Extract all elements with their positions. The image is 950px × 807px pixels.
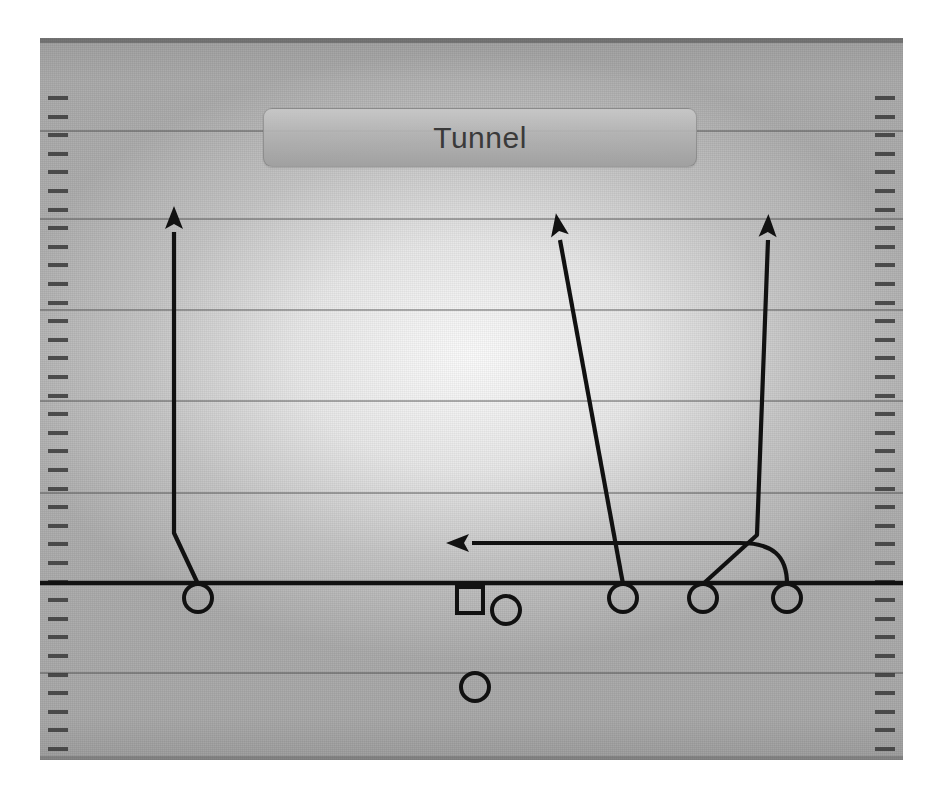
hash-mark-right-19: [875, 449, 895, 453]
hash-mark-right-17: [875, 412, 895, 416]
hash-mark-right-7: [875, 226, 895, 230]
hash-mark-right-26: [875, 580, 895, 584]
hash-mark-right-29: [875, 635, 895, 639]
hash-mark-right-35: [875, 747, 895, 751]
hash-mark-right-1: [875, 115, 895, 119]
hash-mark-right-10: [875, 282, 895, 286]
hash-mark-left-17: [48, 412, 68, 416]
hash-mark-left-4: [48, 170, 68, 174]
yard-line-1: [40, 218, 903, 220]
yard-line-5: [40, 672, 903, 674]
hash-mark-left-6: [48, 208, 68, 212]
hash-mark-left-32: [48, 691, 68, 695]
hash-mark-left-19: [48, 449, 68, 453]
hash-mark-right-9: [875, 263, 895, 267]
yard-line-4: [40, 492, 903, 494]
yard-line-2: [40, 309, 903, 311]
hash-mark-right-11: [875, 301, 895, 305]
hash-mark-left-33: [48, 710, 68, 714]
play-title-banner: Tunnel: [263, 108, 697, 167]
hash-mark-left-21: [48, 487, 68, 491]
hash-mark-left-16: [48, 394, 68, 398]
hash-mark-right-12: [875, 319, 895, 323]
hash-mark-left-26: [48, 580, 68, 584]
hash-mark-left-5: [48, 189, 68, 193]
hash-mark-left-22: [48, 505, 68, 509]
hash-mark-right-23: [875, 524, 895, 528]
hash-mark-right-5: [875, 189, 895, 193]
hash-mark-left-9: [48, 263, 68, 267]
hash-mark-right-30: [875, 654, 895, 658]
hash-mark-right-16: [875, 394, 895, 398]
hash-mark-right-14: [875, 356, 895, 360]
hash-mark-right-21: [875, 487, 895, 491]
hash-mark-left-2: [48, 133, 68, 137]
hash-mark-left-30: [48, 654, 68, 658]
hash-mark-right-34: [875, 728, 895, 732]
hash-mark-right-25: [875, 561, 895, 565]
hash-mark-left-8: [48, 245, 68, 249]
hash-mark-left-24: [48, 542, 68, 546]
hash-mark-right-0: [875, 96, 895, 100]
hash-mark-left-29: [48, 635, 68, 639]
hash-mark-left-31: [48, 673, 68, 677]
hash-mark-right-20: [875, 468, 895, 472]
hash-mark-left-25: [48, 561, 68, 565]
hash-mark-right-33: [875, 710, 895, 714]
play-diagram-page: Tunnel: [0, 0, 950, 807]
hash-mark-right-27: [875, 598, 895, 602]
hash-mark-left-13: [48, 338, 68, 342]
hash-mark-right-15: [875, 375, 895, 379]
hash-mark-left-35: [48, 747, 68, 751]
hash-mark-left-28: [48, 617, 68, 621]
hash-mark-left-1: [48, 115, 68, 119]
play-title-label: Tunnel: [433, 121, 527, 155]
hash-mark-right-4: [875, 170, 895, 174]
hash-mark-left-11: [48, 301, 68, 305]
hash-mark-right-6: [875, 208, 895, 212]
hash-mark-left-3: [48, 152, 68, 156]
hash-mark-right-31: [875, 673, 895, 677]
hash-mark-left-10: [48, 282, 68, 286]
hash-mark-left-7: [48, 226, 68, 230]
hash-mark-left-14: [48, 356, 68, 360]
hash-mark-left-12: [48, 319, 68, 323]
yard-line-3: [40, 400, 903, 402]
hash-mark-right-2: [875, 133, 895, 137]
hash-mark-left-23: [48, 524, 68, 528]
hash-mark-left-0: [48, 96, 68, 100]
hash-mark-right-3: [875, 152, 895, 156]
hash-mark-left-20: [48, 468, 68, 472]
hash-mark-left-27: [48, 598, 68, 602]
hash-mark-right-8: [875, 245, 895, 249]
field-bottom-border: [40, 756, 903, 760]
hash-mark-right-13: [875, 338, 895, 342]
hash-mark-right-18: [875, 431, 895, 435]
hash-mark-right-32: [875, 691, 895, 695]
hash-mark-left-18: [48, 431, 68, 435]
hash-mark-right-28: [875, 617, 895, 621]
field-top-border: [40, 38, 903, 43]
hash-mark-right-22: [875, 505, 895, 509]
hash-mark-right-24: [875, 542, 895, 546]
hash-mark-left-34: [48, 728, 68, 732]
hash-mark-left-15: [48, 375, 68, 379]
